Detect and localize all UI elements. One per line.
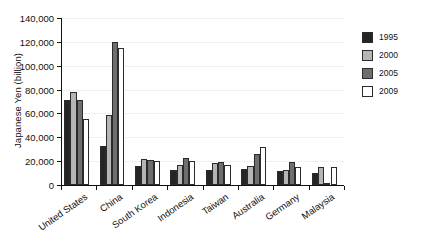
y-tick-label: 40,000: [2, 132, 54, 143]
y-tick-label: 140,000: [2, 13, 54, 24]
x-tick-mark: [238, 186, 239, 190]
bar: [331, 167, 337, 185]
x-tick-mark: [309, 186, 310, 190]
bar: [154, 161, 160, 185]
bar-group: [277, 18, 302, 185]
bar-group: [64, 18, 89, 185]
bar: [83, 119, 89, 185]
x-tick-mark: [96, 186, 97, 190]
bar: [118, 48, 124, 185]
legend-label: 2009: [379, 86, 398, 96]
y-tick-mark: [57, 137, 61, 138]
legend-swatch-icon: [362, 68, 373, 79]
x-tick-mark: [61, 186, 62, 190]
legend-swatch-icon: [362, 86, 373, 97]
x-tick-mark: [167, 186, 168, 190]
x-tick-mark: [344, 186, 345, 190]
bar: [224, 165, 230, 185]
bar: [295, 167, 301, 185]
bar-chart: Japanese Yen (billion) 020,00040,00060,0…: [0, 0, 423, 252]
legend-swatch-icon: [362, 50, 373, 61]
y-tick-mark: [57, 113, 61, 114]
x-tick-mark: [132, 186, 133, 190]
bar-group: [312, 18, 337, 185]
y-tick-label: 120,000: [2, 36, 54, 47]
y-tick-mark: [57, 161, 61, 162]
y-tick-label: 80,000: [2, 84, 54, 95]
chart-legend: 1995200020052009: [362, 28, 398, 100]
bar-group: [206, 18, 231, 185]
y-tick-mark: [57, 42, 61, 43]
y-tick-label: 20,000: [2, 156, 54, 167]
x-tick-mark: [273, 186, 274, 190]
legend-item[interactable]: 2000: [362, 46, 398, 64]
y-tick-label: 100,000: [2, 60, 54, 71]
x-tick-mark: [203, 186, 204, 190]
legend-label: 1995: [379, 32, 398, 42]
legend-item[interactable]: 2005: [362, 64, 398, 82]
y-tick-mark: [57, 90, 61, 91]
bar-group: [100, 18, 125, 185]
legend-item[interactable]: 2009: [362, 82, 398, 100]
y-tick-mark: [57, 66, 61, 67]
y-tick-label: 60,000: [2, 108, 54, 119]
bar-group: [170, 18, 195, 185]
legend-item[interactable]: 1995: [362, 28, 398, 46]
legend-label: 2005: [379, 68, 398, 78]
y-tick-label: 0: [2, 180, 54, 191]
bar-group: [241, 18, 266, 185]
y-tick-mark: [57, 18, 61, 19]
bar: [260, 147, 266, 185]
legend-label: 2000: [379, 50, 398, 60]
legend-swatch-icon: [362, 32, 373, 43]
y-axis-line: [61, 18, 62, 186]
bar: [189, 161, 195, 185]
bar-group: [135, 18, 160, 185]
